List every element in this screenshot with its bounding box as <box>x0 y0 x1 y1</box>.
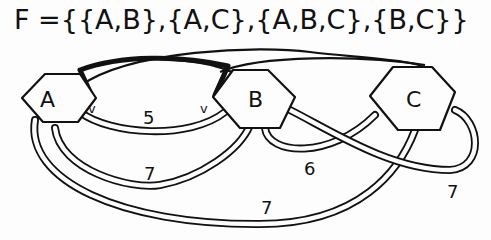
node-b-label: B <box>248 87 263 112</box>
weight-bottom-7: 7 <box>261 197 272 218</box>
weight-ab-5: 5 <box>143 107 154 128</box>
hypergraph-diagram: F ={{A,B},{A,C},{A,B,C},{B,C}} <box>0 0 491 240</box>
diagram-svg: A B C v v 5 7 6 7 7 <box>0 0 491 240</box>
check-mark-right: v <box>200 101 208 116</box>
node-a-label: A <box>40 87 55 112</box>
weight-bc-7: 7 <box>447 181 458 202</box>
weight-ab-7: 7 <box>144 163 155 184</box>
edge-b-c-7-right <box>290 110 475 170</box>
node-c-label: C <box>406 87 421 112</box>
hyperedge-ab-thick <box>80 58 228 96</box>
weight-bc-6: 6 <box>304 158 315 179</box>
check-mark-left: v <box>88 101 96 116</box>
